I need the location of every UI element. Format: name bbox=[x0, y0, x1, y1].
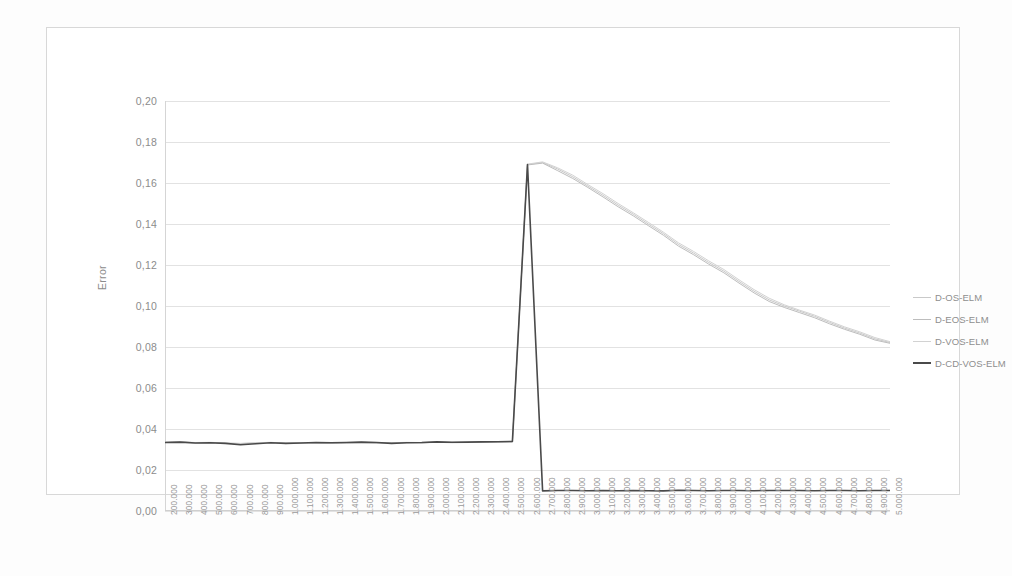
x-axis-tick-label: 1.500.000 bbox=[365, 477, 375, 515]
legend-swatch-icon bbox=[913, 319, 931, 320]
legend-item[interactable]: D-OS-ELM bbox=[913, 286, 1012, 308]
x-axis-tick-label: 2.000.000 bbox=[441, 477, 451, 515]
y-axis-tick-label: 0,14 bbox=[136, 218, 157, 230]
x-axis-tick-label: 200.000 bbox=[169, 484, 179, 515]
x-axis-tick-label: 1.700.000 bbox=[396, 477, 406, 515]
y-axis-tick-label: 0,00 bbox=[136, 505, 157, 517]
x-axis-tick-label: 3.300.000 bbox=[637, 477, 647, 515]
y-axis-tick-label: 0,18 bbox=[136, 136, 157, 148]
x-axis-tick-label: 4.700.000 bbox=[849, 477, 859, 515]
y-axis-tick-label: 0,02 bbox=[136, 464, 157, 476]
x-axis-tick-label: 800.000 bbox=[260, 484, 270, 515]
x-axis-tick-label: 2.500.000 bbox=[516, 477, 526, 515]
x-axis-tick-label: 3.200.000 bbox=[622, 477, 632, 515]
x-axis-tick-label: 1.800.000 bbox=[411, 477, 421, 515]
x-axis-tick-label: 2.600.000 bbox=[532, 477, 542, 515]
y-axis-tick-label: 0,20 bbox=[136, 95, 157, 107]
x-axis-tick-label: 1.600.000 bbox=[380, 477, 390, 515]
x-axis-tick-label: 3.100.000 bbox=[607, 477, 617, 515]
legend-swatch-icon bbox=[913, 297, 931, 298]
x-axis-tick-label: 3.800.000 bbox=[713, 477, 723, 515]
x-axis-tick-label: 2.900.000 bbox=[577, 477, 587, 515]
x-axis-tick-label: 400.000 bbox=[199, 484, 209, 515]
x-axis-tick-label: 3.400.000 bbox=[652, 477, 662, 515]
x-axis-tick-label: 900.000 bbox=[275, 484, 285, 515]
y-axis-tick-label: 0,12 bbox=[136, 259, 157, 271]
legend-swatch-icon bbox=[913, 341, 931, 342]
legend-item-label: D-OS-ELM bbox=[935, 292, 982, 303]
x-axis-tick-label: 3.700.000 bbox=[698, 477, 708, 515]
x-axis-tick-label: 4.500.000 bbox=[818, 477, 828, 515]
y-axis-tick-label: 0,08 bbox=[136, 341, 157, 353]
x-axis-tick-label: 1.000.000 bbox=[290, 477, 300, 515]
x-axis-tick-label: 2.200.000 bbox=[471, 477, 481, 515]
x-axis-tick-label: 3.500.000 bbox=[667, 477, 677, 515]
legend-item-label: D-EOS-ELM bbox=[935, 314, 989, 325]
x-axis-tick-label: 2.400.000 bbox=[501, 477, 511, 515]
y-axis-tick-label: 0,16 bbox=[136, 177, 157, 189]
y-axis-tick-label: 0,04 bbox=[136, 423, 157, 435]
x-axis-tick-label: 1.400.000 bbox=[350, 477, 360, 515]
x-axis-tick-label: 1.900.000 bbox=[426, 477, 436, 515]
legend-item[interactable]: D-VOS-ELM bbox=[913, 330, 1012, 352]
x-axis-tick-label: 4.600.000 bbox=[834, 477, 844, 515]
series-lines bbox=[165, 101, 890, 511]
legend-item[interactable]: D-EOS-ELM bbox=[913, 308, 1012, 330]
x-axis-tick-label: 2.100.000 bbox=[456, 477, 466, 515]
x-axis-tick-label: 1.100.000 bbox=[305, 477, 315, 515]
x-axis-tick-label: 4.000.000 bbox=[743, 477, 753, 515]
x-axis-tick-label: 1.300.000 bbox=[335, 477, 345, 515]
x-axis-tick-label: 3.600.000 bbox=[683, 477, 693, 515]
x-axis-tick-label: 5.000.000 bbox=[894, 477, 904, 515]
plot-area bbox=[165, 101, 890, 511]
x-axis-tick-label: 4.100.000 bbox=[758, 477, 768, 515]
legend-item[interactable]: D-CD-VOS-ELM bbox=[913, 352, 1012, 374]
x-axis-tick-label: 2.700.000 bbox=[547, 477, 557, 515]
x-axis-tick-label: 3.900.000 bbox=[728, 477, 738, 515]
x-axis-tick-labels: 200.000300.000400.000500.000600.000700.0… bbox=[165, 515, 890, 576]
page-root: Error 0,200,180,160,140,120,100,080,060,… bbox=[0, 0, 1012, 576]
x-axis-tick-label: 4.900.000 bbox=[879, 477, 889, 515]
x-axis-tick-label: 500.000 bbox=[214, 484, 224, 515]
x-axis-tick-label: 4.200.000 bbox=[773, 477, 783, 515]
y-axis-tick-label: 0,06 bbox=[136, 382, 157, 394]
x-axis-tick-label: 4.800.000 bbox=[864, 477, 874, 515]
x-axis-tick-label: 4.300.000 bbox=[788, 477, 798, 515]
x-axis-tick-label: 300.000 bbox=[184, 484, 194, 515]
legend-swatch-icon bbox=[913, 362, 931, 364]
x-axis-tick-label: 4.400.000 bbox=[803, 477, 813, 515]
series-line bbox=[165, 165, 890, 491]
y-axis-tick-labels: 0,200,180,160,140,120,100,080,060,040,02… bbox=[107, 101, 157, 511]
y-axis-tick-label: 0,10 bbox=[136, 300, 157, 312]
legend-item-label: D-CD-VOS-ELM bbox=[935, 358, 1006, 369]
x-axis-tick-label: 700.000 bbox=[245, 484, 255, 515]
series-line bbox=[165, 162, 890, 443]
x-axis-tick-label: 1.200.000 bbox=[320, 477, 330, 515]
x-axis-tick-label: 600.000 bbox=[229, 484, 239, 515]
chart-legend: D-OS-ELMD-EOS-ELMD-VOS-ELMD-CD-VOS-ELM bbox=[913, 286, 1012, 374]
x-axis-tick-label: 2.800.000 bbox=[562, 477, 572, 515]
x-axis-tick-label: 3.000.000 bbox=[592, 477, 602, 515]
chart-frame: Error 0,200,180,160,140,120,100,080,060,… bbox=[46, 27, 960, 495]
legend-item-label: D-VOS-ELM bbox=[935, 336, 989, 347]
x-axis-tick-label: 2.300.000 bbox=[486, 477, 496, 515]
